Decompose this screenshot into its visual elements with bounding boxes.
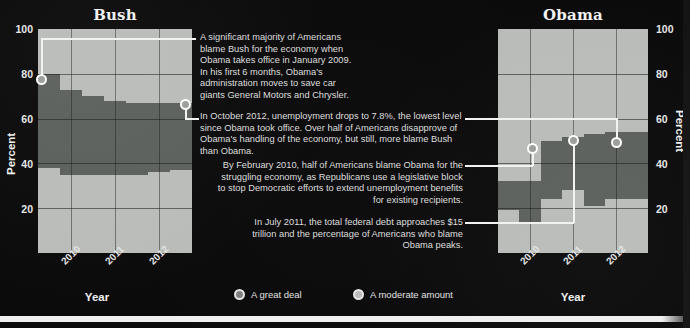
legend-label-great-deal: A great deal <box>251 289 302 300</box>
figure-canvas: Bush 100 80 60 40 20 Percent 2010 2011 2… <box>0 0 690 328</box>
area-great-deal-bush <box>170 103 192 170</box>
ytick-obama-20: 20 <box>656 203 686 215</box>
callout-bush-2009-text: A significant majority of Americans blam… <box>200 32 358 102</box>
callout-jul-2011-text: In July 2011, the total federal debt app… <box>250 217 463 252</box>
area-great-deal-obama <box>498 181 519 210</box>
right-edge-strip <box>683 0 690 328</box>
ytick-obama-40: 40 <box>656 158 686 170</box>
gridline-x-2011 <box>115 29 116 253</box>
gridline-x-2012 <box>159 29 160 253</box>
gridline-x-2010 <box>530 29 531 253</box>
callout-jul-2011-leader <box>465 222 574 224</box>
callout-jul-2011-marker[interactable] <box>568 135 579 146</box>
area-great-deal-obama <box>584 134 605 206</box>
panel-title-obama: Obama <box>498 6 648 24</box>
legend-swatch-great-deal-icon <box>234 289 245 300</box>
panel-title-bush: Bush <box>38 6 192 24</box>
callout-oct-2012-text: In October 2012, unemployment drops to 7… <box>200 111 463 157</box>
ytick-obama-80: 80 <box>656 68 686 80</box>
callout-jul-2011-leader-vertical <box>573 140 575 223</box>
callout-oct-2012-marker-obama[interactable] <box>611 137 622 148</box>
callout-feb-2010-text: By February 2010, half of Americans blam… <box>212 160 463 206</box>
ytick-bush-80: 80 <box>0 68 33 80</box>
callout-oct-2012-leader-left <box>185 118 199 120</box>
yaxis-label-bush: Percent <box>5 133 17 175</box>
ytick-bush-60: 60 <box>0 113 33 125</box>
callout-oct-2012-leader-right <box>465 118 617 120</box>
area-great-deal-obama <box>541 141 562 199</box>
chart-plot-bush <box>38 29 192 253</box>
legend-swatch-moderate-icon <box>353 289 364 300</box>
callout-feb-2010-leader <box>465 165 533 167</box>
ytick-bush-20: 20 <box>0 203 33 215</box>
callout-oct-2012-marker-bush[interactable] <box>180 99 191 110</box>
bottom-rule <box>0 316 690 322</box>
xaxis-label-bush: Year <box>85 291 109 303</box>
gridline-x-2010 <box>71 29 72 253</box>
legend-label-moderate-amount: A moderate amount <box>370 289 453 300</box>
callout-bush-2009-marker[interactable] <box>36 74 47 85</box>
callout-bush-2009-leader-horizontal <box>41 38 196 40</box>
area-great-deal-bush <box>38 74 60 168</box>
legend-item-moderate-amount[interactable]: A moderate amount <box>353 289 453 300</box>
xaxis-label-obama: Year <box>561 291 585 303</box>
ytick-bush-100: 100 <box>0 23 33 35</box>
area-great-deal-obama <box>626 132 648 199</box>
callout-feb-2010-marker[interactable] <box>527 143 538 154</box>
ytick-obama-100: 100 <box>656 23 686 35</box>
legend-item-great-deal[interactable]: A great deal <box>234 289 302 300</box>
